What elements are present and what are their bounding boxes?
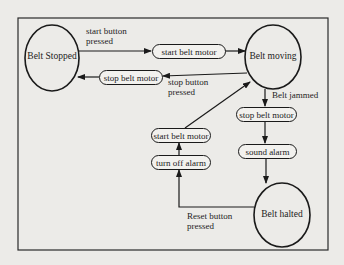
event-belt-jammed: Belt jammed (272, 90, 318, 100)
action-start-belt-motor-top: start belt motor (152, 44, 226, 59)
event-reset-button-line2: pressed (187, 221, 214, 231)
state-belt-halted: Belt halted (254, 209, 310, 219)
event-stop-button-line1: stop button (168, 77, 208, 87)
action-turn-off-alarm: turn off alarm (151, 155, 211, 170)
action-stop-belt-motor-top: stop belt motor (99, 70, 163, 85)
action-stop-belt-motor-right: stop belt motor (236, 107, 297, 122)
action-start-belt-motor-left: start belt motor (151, 128, 211, 143)
event-stop-button-line2: pressed (168, 87, 195, 97)
event-reset-button-line1: Reset button (187, 211, 232, 221)
state-belt-stopped: Belt Stopped (22, 51, 82, 61)
event-start-button-line1: start button (86, 26, 127, 36)
state-belt-moving: Belt moving (244, 51, 302, 61)
arrow-stop-1 (163, 73, 247, 76)
event-start-button-line2: pressed (86, 36, 113, 46)
action-sound-alarm: sound alarm (238, 144, 297, 159)
arrow-reset-1 (179, 170, 254, 207)
